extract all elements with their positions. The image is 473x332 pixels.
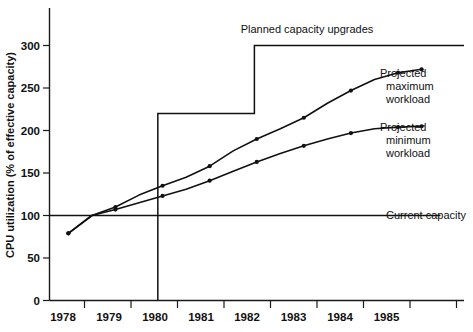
data-point	[160, 194, 164, 198]
data-point	[208, 164, 212, 168]
projected-maximum-workload-markers	[66, 67, 423, 235]
data-point	[302, 144, 306, 148]
projected-maximum-workload-label-line2: maximum	[386, 80, 434, 92]
x-tick-label-1984: 1984	[327, 311, 353, 323]
x-tick-label-1979: 1979	[96, 311, 122, 323]
data-point	[302, 116, 306, 120]
y-tick-label-0: 0	[34, 295, 40, 307]
x-tick-label-1983: 1983	[281, 311, 307, 323]
projected-minimum-workload-label-line1: Projected	[380, 121, 426, 133]
data-point	[208, 179, 212, 183]
data-point	[160, 184, 164, 188]
data-point	[255, 160, 259, 164]
x-tick-label-1981: 1981	[188, 311, 214, 323]
y-tick-label-50: 50	[27, 252, 40, 264]
y-tick-label-300: 300	[21, 40, 40, 52]
current-capacity-label: Current capacity	[386, 209, 467, 221]
chart-page: 0 50 100 150 200 250 300 CPU utilization…	[0, 0, 473, 332]
projected-minimum-workload-line	[68, 126, 421, 233]
y-tick-label-100: 100	[21, 210, 40, 222]
x-tick-label-1978: 1978	[50, 311, 76, 323]
cpu-utilization-chart: 0 50 100 150 200 250 300 CPU utilization…	[0, 0, 473, 332]
y-tick-label-200: 200	[21, 125, 40, 137]
projected-minimum-workload-markers	[66, 124, 423, 235]
data-point	[349, 88, 353, 92]
y-tick-label-150: 150	[21, 167, 40, 179]
planned-capacity-upgrades-label: Planned capacity upgrades	[241, 23, 374, 35]
projected-minimum-workload-label-line3: workload	[385, 147, 430, 159]
x-tick-label-1985: 1985	[374, 311, 400, 323]
x-tick-marks	[85, 301, 457, 309]
projected-maximum-workload-line	[68, 69, 421, 233]
y-tick-label-250: 250	[21, 82, 40, 94]
x-tick-label-1982: 1982	[234, 311, 260, 323]
data-point	[349, 131, 353, 135]
y-axis-title: CPU utilization (% of effective capacity…	[4, 52, 16, 258]
projected-maximum-workload-label-line1: Projected	[380, 67, 426, 79]
projected-minimum-workload-label-line2: minimum	[386, 134, 431, 146]
x-tick-label-1980: 1980	[142, 311, 168, 323]
data-point	[66, 231, 70, 235]
y-tick-marks	[43, 46, 50, 301]
data-point	[255, 137, 259, 141]
projected-maximum-workload-label-line3: workload	[385, 93, 430, 105]
data-point	[113, 207, 117, 211]
